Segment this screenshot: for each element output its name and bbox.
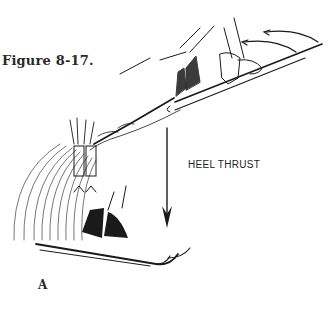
lower-skis bbox=[36, 244, 190, 266]
motion-arrows-icon bbox=[242, 30, 318, 52]
figure-caption: Figure 8-17. bbox=[2, 53, 94, 68]
panel-label: A bbox=[38, 278, 47, 292]
heel-thrust-label: HEEL THRUST bbox=[188, 159, 260, 170]
skier-illustration bbox=[0, 0, 328, 336]
lower-skier bbox=[14, 118, 128, 240]
heel-thrust-arrow-icon bbox=[162, 128, 172, 228]
